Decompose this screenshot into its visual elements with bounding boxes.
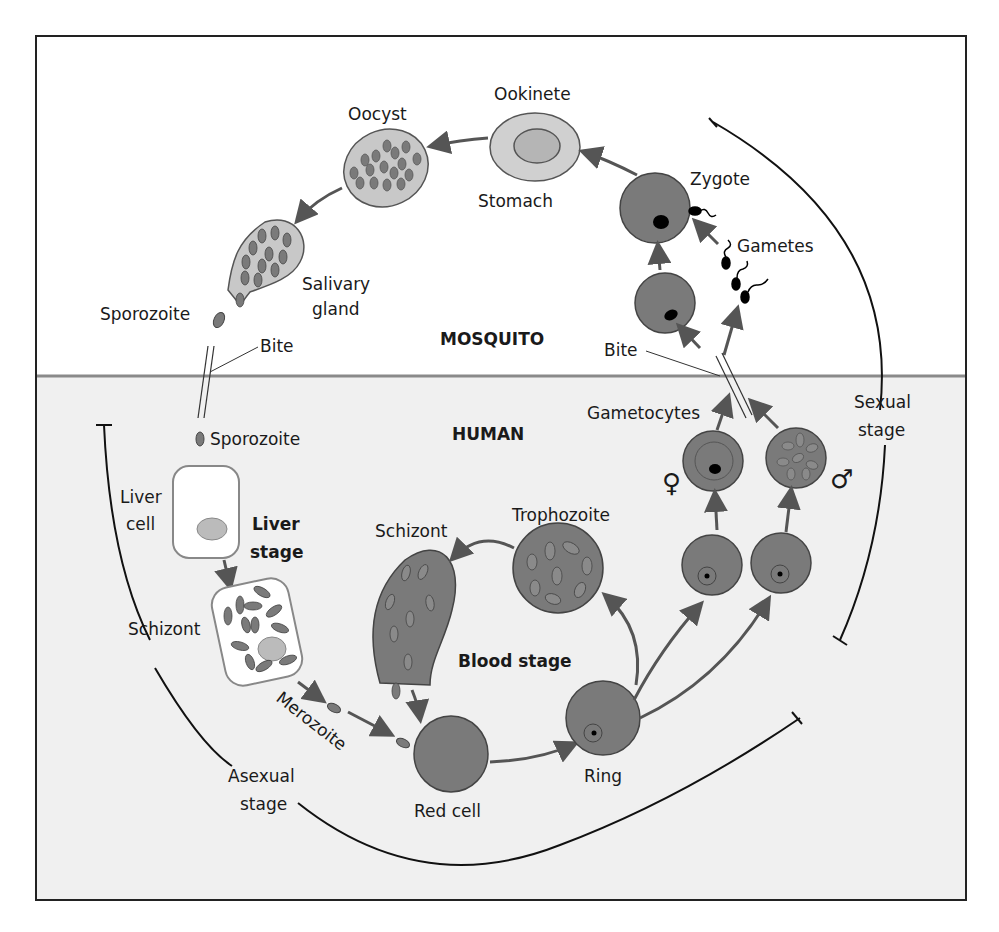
- stomach-label: Stomach: [478, 191, 553, 211]
- liver-cell-label-1: Liver: [120, 487, 162, 507]
- schizont-liver-label: Schizont: [128, 619, 201, 639]
- red-cell-label: Red cell: [414, 801, 481, 821]
- ookinete-label: Ookinete: [494, 84, 571, 104]
- early-zygote-cell: [635, 273, 695, 333]
- ring-cell: [566, 681, 640, 755]
- female-gametocyte: [683, 431, 743, 491]
- malaria-life-cycle-diagram: MOSQUITO HUMAN Ookinete Stomach Oocyst: [0, 0, 999, 932]
- ookinete-cell: [490, 113, 580, 181]
- sporozoite-human-icon: [196, 432, 204, 446]
- sporozoite-mosquito-label: Sporozoite: [100, 304, 190, 324]
- red-cell: [414, 716, 488, 792]
- sexual-stage-label-2: stage: [858, 420, 905, 440]
- liver-stage-label-2: stage: [250, 542, 303, 562]
- zygote-cell: [620, 173, 690, 243]
- gametocyte-precursor-male: [751, 533, 811, 593]
- ring-label: Ring: [584, 766, 622, 786]
- female-symbol: ♀: [662, 468, 681, 498]
- bite-left-label: Bite: [260, 336, 294, 356]
- trophozoite-cell: [513, 523, 603, 613]
- asexual-stage-label-2: stage: [240, 794, 287, 814]
- bite-right-label: Bite: [604, 340, 638, 360]
- sexual-stage-label-1: Sexual: [854, 392, 911, 412]
- arrow-to-zygote: [658, 246, 660, 270]
- liver-cell: [173, 466, 239, 558]
- liver-stage-label-1: Liver: [252, 514, 300, 534]
- oocyst-label: Oocyst: [348, 104, 407, 124]
- salivary-gland-label-2: gland: [312, 299, 360, 319]
- male-gametocyte: [766, 428, 826, 488]
- gametocyte-precursor-female: [682, 535, 742, 595]
- human-label: HUMAN: [452, 424, 524, 444]
- zygote-label: Zygote: [690, 169, 750, 189]
- sporozoite-human-label: Sporozoite: [210, 429, 300, 449]
- male-symbol: ♂: [830, 464, 853, 494]
- asexual-stage-label-1: Asexual: [228, 766, 295, 786]
- schizont-blood-label: Schizont: [375, 521, 448, 541]
- arrow-to-female-gametocyte: [715, 494, 717, 530]
- gametocytes-label: Gametocytes: [587, 403, 700, 423]
- trophozoite-label: Trophozoite: [511, 505, 610, 525]
- salivary-gland-label-1: Salivary: [302, 274, 370, 294]
- liver-cell-label-2: cell: [126, 514, 155, 534]
- mosquito-label: MOSQUITO: [440, 329, 544, 349]
- blood-stage-label: Blood stage: [458, 651, 572, 671]
- gametes-label: Gametes: [737, 236, 814, 256]
